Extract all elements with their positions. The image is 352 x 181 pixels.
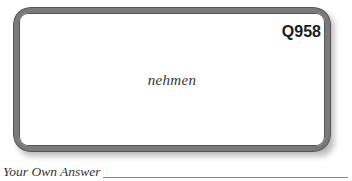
answer-label: Your Own Answer: [3, 164, 101, 180]
flashcard: Q958 nehmen: [14, 8, 330, 151]
answer-row: Your Own Answer: [3, 164, 348, 180]
question-id: Q958: [282, 23, 321, 41]
answer-line[interactable]: [103, 177, 348, 178]
card-word: nehmen: [19, 72, 325, 89]
